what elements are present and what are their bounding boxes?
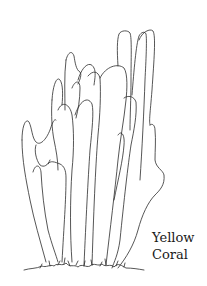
coral-branch xyxy=(75,100,93,265)
coral-branch xyxy=(132,32,146,180)
caption-line-2: Coral xyxy=(152,246,194,263)
coral-branch xyxy=(65,60,66,110)
coral-branch xyxy=(52,100,58,170)
species-caption: Yellow Coral xyxy=(152,229,194,263)
coral-branch xyxy=(52,79,63,105)
coral-branch xyxy=(78,64,95,85)
illustration-canvas: Yellow Coral xyxy=(0,0,207,286)
coral-branch xyxy=(22,140,46,262)
coral-branch xyxy=(114,133,124,200)
coral-branch xyxy=(22,120,56,144)
coral-branch xyxy=(35,145,50,166)
caption-line-1: Yellow xyxy=(152,229,194,246)
coral-branch xyxy=(33,166,58,262)
coral-branch xyxy=(100,66,127,265)
coral-branch xyxy=(139,30,155,125)
coral-branch xyxy=(48,162,66,262)
